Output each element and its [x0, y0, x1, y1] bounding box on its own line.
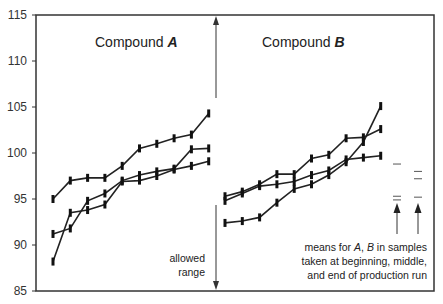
data-point-marker: [379, 125, 382, 133]
y-tick-label: 100: [7, 146, 27, 160]
data-point-marker: [275, 180, 278, 188]
arrowhead-down-icon: [213, 281, 219, 290]
data-point-marker: [345, 158, 348, 166]
data-point-marker: [190, 131, 193, 139]
data-point-marker: [224, 219, 227, 227]
data-point-marker: [327, 171, 330, 179]
series-line: [53, 148, 209, 234]
data-point-marker: [69, 224, 72, 232]
arrowhead-up-icon: [415, 203, 422, 213]
chart: 859095100105110115 Compound A Compound B…: [0, 0, 443, 304]
y-tick-label: 95: [14, 192, 28, 206]
data-point-marker: [190, 145, 193, 153]
data-point-marker: [103, 201, 106, 209]
data-point-marker: [379, 102, 382, 110]
data-point-marker: [103, 189, 106, 197]
data-point-marker: [275, 170, 278, 178]
data-point-marker: [310, 180, 313, 188]
means-note-line-1: means for A, B in samples: [304, 241, 427, 253]
data-point-marker: [327, 151, 330, 159]
data-point-marker: [241, 189, 244, 197]
data-point-marker: [207, 144, 210, 152]
arrowhead-up-icon: [213, 16, 219, 25]
data-point-marker: [138, 177, 141, 185]
arrowhead-up-icon: [394, 203, 401, 213]
data-point-marker: [86, 197, 89, 205]
data-point-marker: [379, 152, 382, 160]
data-point-marker: [310, 155, 313, 163]
data-point-marker: [121, 162, 124, 170]
data-point-marker: [138, 144, 141, 152]
allowed-range-label: allowed: [169, 252, 205, 264]
y-tick-label: 105: [7, 100, 27, 114]
y-tick-label: 90: [14, 238, 28, 252]
data-point-marker: [52, 195, 55, 203]
data-point-marker: [293, 170, 296, 178]
series-line: [53, 161, 209, 261]
data-point-marker: [86, 174, 89, 182]
series-line: [225, 106, 381, 223]
data-point-marker: [190, 162, 193, 170]
data-point-marker: [173, 134, 176, 142]
panel-b-title: Compound B: [262, 34, 345, 50]
data-point-marker: [293, 178, 296, 186]
data-point-marker: [69, 209, 72, 217]
data-point-marker: [241, 217, 244, 225]
data-point-marker: [345, 134, 348, 142]
data-point-marker: [310, 171, 313, 179]
means-note-line-2: taken at beginning, middle,: [301, 255, 427, 267]
data-point-marker: [121, 178, 124, 186]
data-point-marker: [275, 199, 278, 207]
data-point-marker: [52, 230, 55, 238]
means-note-line-3: and end of production run: [307, 269, 427, 281]
y-tick-label: 115: [8, 8, 27, 22]
data-point-marker: [293, 185, 296, 193]
data-point-marker: [155, 172, 158, 180]
data-point-marker: [258, 213, 261, 221]
y-tick-label: 110: [8, 54, 27, 68]
data-point-marker: [362, 138, 365, 146]
y-tick-label: 85: [14, 284, 28, 298]
data-point-marker: [52, 258, 55, 266]
data-point-marker: [103, 174, 106, 182]
allowed-range-label-2: range: [178, 266, 205, 278]
data-point-marker: [155, 140, 158, 148]
panel-a-title: Compound A: [95, 34, 178, 50]
data-point-marker: [207, 157, 210, 165]
data-point-marker: [224, 197, 227, 205]
data-point-marker: [258, 182, 261, 190]
data-point-marker: [69, 177, 72, 185]
data-point-marker: [173, 166, 176, 174]
data-point-marker: [362, 154, 365, 162]
series-line: [225, 156, 381, 201]
data-point-marker: [207, 109, 210, 117]
data-point-marker: [86, 206, 89, 214]
